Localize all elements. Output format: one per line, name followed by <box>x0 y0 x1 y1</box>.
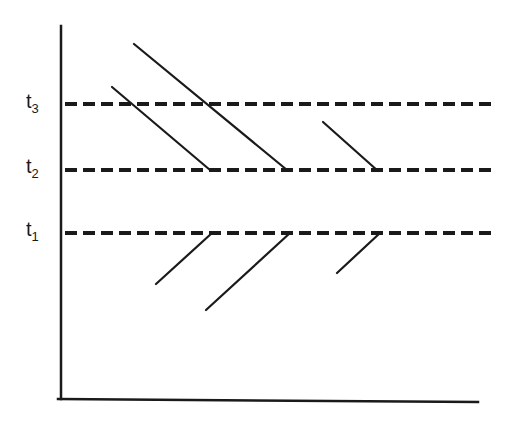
x-axis <box>58 399 478 402</box>
diagonal-segment <box>337 233 380 273</box>
diagonal-segment <box>323 122 378 171</box>
label-t3: t3 <box>26 91 39 115</box>
time-level-lines <box>65 104 492 233</box>
diagonal-segment <box>206 233 290 310</box>
diagonal-segments <box>112 44 380 310</box>
diagonal-segment <box>134 44 287 170</box>
diagram-canvas <box>0 0 512 437</box>
label-t2: t2 <box>26 156 39 180</box>
label-t1: t1 <box>26 219 39 243</box>
diagonal-segment <box>112 87 210 170</box>
diagonal-segment <box>156 233 212 284</box>
